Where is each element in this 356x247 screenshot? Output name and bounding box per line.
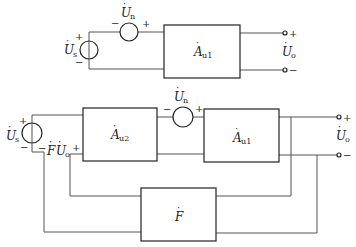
- svg-text:n: n: [130, 12, 135, 21]
- svg-text:·: ·: [113, 120, 116, 131]
- svg-text:·: ·: [58, 136, 61, 147]
- svg-text:·: ·: [49, 136, 52, 147]
- source-minus: −: [20, 142, 28, 153]
- svg-text:·: ·: [123, 0, 126, 9]
- noise-plus: +: [142, 18, 150, 29]
- output-minus: −: [289, 65, 297, 76]
- svg-text:s: s: [73, 50, 77, 59]
- svg-text:n: n: [183, 96, 188, 105]
- svg-text:·: ·: [176, 82, 179, 93]
- output-terminal-plus: [337, 115, 341, 119]
- noise-source-icon: [120, 23, 138, 41]
- svg-text:o: o: [345, 135, 350, 144]
- noise-source-icon: [173, 107, 193, 127]
- noise-minus: −: [111, 18, 119, 29]
- output-terminal-plus: [283, 31, 287, 35]
- svg-text:+: +: [72, 142, 80, 153]
- svg-text:o: o: [291, 51, 296, 60]
- noise-plus: +: [195, 103, 203, 114]
- svg-text:·: ·: [235, 123, 238, 134]
- svg-text:·: ·: [284, 37, 287, 48]
- svg-text:s: s: [15, 135, 19, 144]
- svg-text:u1: u1: [241, 137, 251, 146]
- svg-text:·: ·: [8, 121, 11, 132]
- source-plus: +: [75, 31, 83, 42]
- top-circuit: + − U s · − + U n · A u1 · + − U o: [64, 0, 297, 78]
- noise-label: U n ·: [174, 82, 188, 105]
- source-label: U s ·: [6, 121, 19, 144]
- output-label: U o ·: [282, 37, 296, 60]
- noise-label: U n ·: [121, 0, 135, 21]
- svg-text:·: ·: [177, 202, 180, 213]
- svg-text:u1: u1: [202, 51, 212, 60]
- output-label: U o ·: [336, 121, 350, 144]
- circuit-diagram: + − U s · − + U n · A u1 · + − U o: [0, 0, 356, 247]
- svg-text:o: o: [65, 150, 70, 159]
- svg-text:·: ·: [66, 35, 69, 46]
- bottom-circuit: + − U s · − F · U · o + A u2 · − + U: [6, 82, 351, 241]
- output-terminal-minus: [337, 153, 341, 157]
- output-plus: +: [289, 28, 297, 39]
- output-minus: −: [343, 150, 351, 161]
- source-plus: +: [19, 115, 27, 126]
- top-wire-lower: [89, 59, 164, 69]
- output-plus: +: [343, 112, 351, 123]
- svg-text:·: ·: [196, 37, 199, 48]
- noise-minus: −: [163, 104, 171, 115]
- feedback-sense-wire-minus: [216, 155, 317, 233]
- svg-text:u2: u2: [119, 134, 129, 143]
- svg-text:−: −: [38, 143, 46, 154]
- output-terminal-minus: [283, 68, 287, 72]
- svg-text:·: ·: [338, 121, 341, 132]
- top-wire-upper-left: [89, 32, 120, 41]
- input-wire-upper: [32, 115, 83, 123]
